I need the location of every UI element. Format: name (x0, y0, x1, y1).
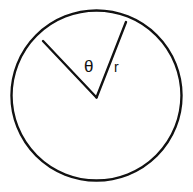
sector-figure-canvas: θ r (0, 0, 193, 192)
circle-sector-diagram: θ r (0, 0, 193, 192)
theta-angle-label: θ (84, 57, 93, 76)
radius-label: r (114, 59, 119, 75)
radius-right-line (97, 22, 127, 98)
